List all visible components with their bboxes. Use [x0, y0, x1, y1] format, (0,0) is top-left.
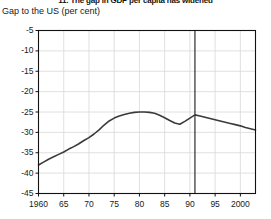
y-tick-label: -35 [0, 148, 34, 157]
y-tick-label: -10 [0, 46, 34, 55]
x-tick-label: 80 [135, 200, 144, 209]
plot-area-wrapper [0, 0, 271, 219]
y-tick-label: -30 [0, 128, 34, 137]
x-tick-label: 75 [109, 200, 118, 209]
y-tick-label: -5 [0, 26, 34, 35]
x-tick-label: 2000 [231, 200, 250, 209]
x-tick-label: 95 [210, 200, 219, 209]
x-tick-label: 90 [185, 200, 194, 209]
y-tick-label: -40 [0, 169, 34, 178]
figure-panel: 11. The gap in GDP per capita has widene… [0, 0, 271, 219]
x-tick-label: 85 [160, 200, 169, 209]
y-tick-label: -15 [0, 67, 34, 76]
y-tick-label: -20 [0, 87, 34, 96]
x-tick-label: 70 [84, 200, 93, 209]
x-tick-label: 1960 [29, 200, 48, 209]
y-tick-label: -25 [0, 108, 34, 117]
line-chart-svg [0, 0, 271, 219]
y-tick-label: -45 [0, 189, 34, 198]
x-tick-label: 65 [59, 200, 68, 209]
